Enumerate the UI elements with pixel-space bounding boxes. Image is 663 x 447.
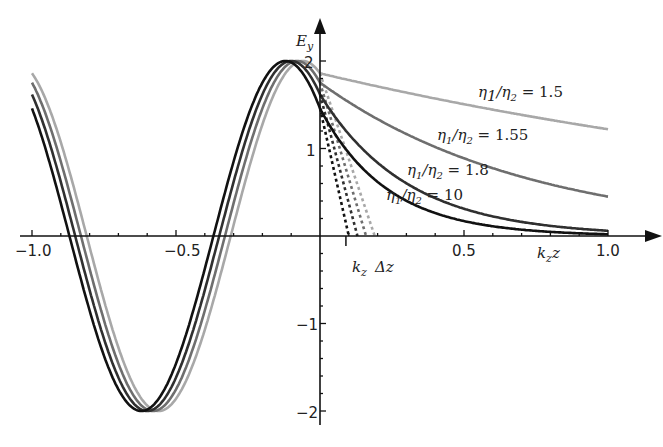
y-tick-label: 2 (304, 54, 314, 72)
annotation-eta-10: η1/η2 = 10 (386, 186, 463, 206)
svg-text:kzΔz: kzΔz (352, 258, 394, 279)
x-axis-label: kzz (537, 244, 560, 265)
x-tick-label: −0.5 (164, 242, 200, 260)
y-tick-label: 1 (306, 142, 316, 160)
y-tick-label: −2 (296, 404, 318, 422)
svg-text:η1/η2 = 1.5: η1/η2 = 1.5 (478, 83, 563, 105)
x-tick-label: 1.0 (596, 242, 620, 260)
y-axis-arrow (314, 18, 326, 34)
x-axis-arrow (645, 230, 662, 242)
svg-text:η1/η2 = 1.55: η1/η2 = 1.55 (437, 126, 528, 146)
annotation-eta-1-5: η1/η2 = 1.5 (478, 83, 563, 105)
annotation-eta-1-55: η1/η2 = 1.55 (437, 126, 528, 146)
y-tick-label: −1 (296, 316, 318, 334)
svg-text:η1/η2 = 1.8: η1/η2 = 1.8 (407, 161, 489, 181)
x-tick-label: −1.0 (15, 242, 51, 260)
chart: −1.0 −0.5 0.5 1.0 2 1 −1 −2 Ey kzz kzΔz … (0, 0, 663, 447)
delta-z-label: kzΔz (352, 258, 394, 279)
svg-text:kzz: kzz (537, 244, 560, 265)
x-tick-label: 0.5 (452, 242, 476, 260)
svg-text:Ey: Ey (295, 32, 314, 53)
svg-text:η1/η2 = 10: η1/η2 = 10 (386, 186, 463, 206)
y-axis-label: Ey (295, 32, 314, 53)
annotation-eta-1-8: η1/η2 = 1.8 (407, 161, 489, 181)
